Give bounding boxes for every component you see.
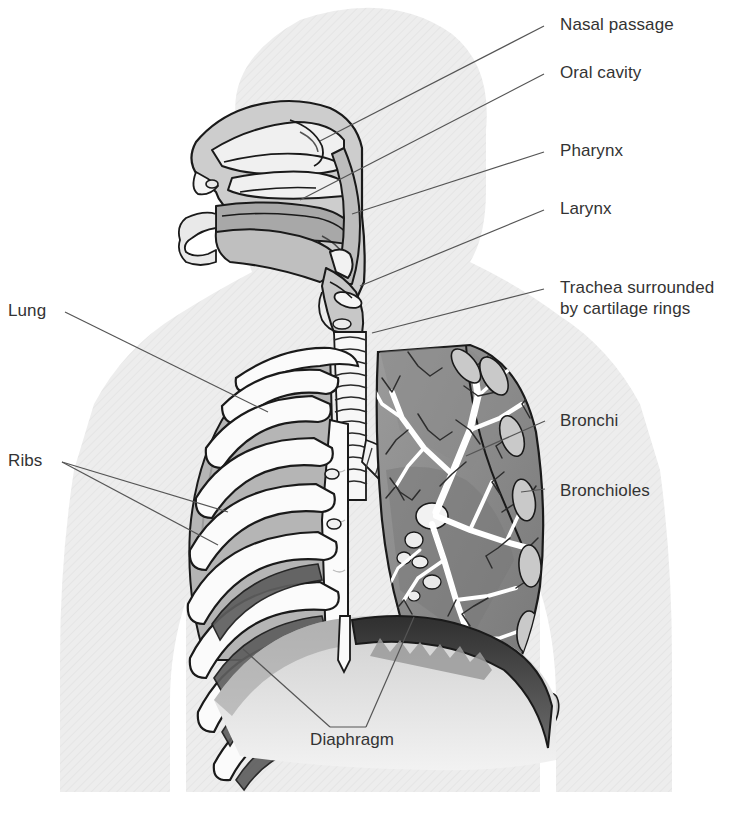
label-nasal-passage: Nasal passage — [560, 14, 674, 35]
diagram-canvas: Nasal passage Oral cavity Pharynx Larynx… — [0, 0, 731, 818]
respiratory-system-illustration — [0, 0, 731, 818]
label-ribs: Ribs — [8, 450, 42, 471]
label-bronchi: Bronchi — [560, 410, 618, 431]
label-oral-cavity: Oral cavity — [560, 62, 641, 83]
label-trachea-line1: Trachea surrounded — [560, 277, 714, 298]
label-lung: Lung — [8, 300, 46, 321]
label-diaphragm: Diaphragm — [310, 729, 394, 750]
label-bronchioles: Bronchioles — [560, 480, 650, 501]
label-pharynx: Pharynx — [560, 140, 623, 161]
label-larynx: Larynx — [560, 198, 612, 219]
label-trachea-line2: by cartilage rings — [560, 298, 690, 319]
